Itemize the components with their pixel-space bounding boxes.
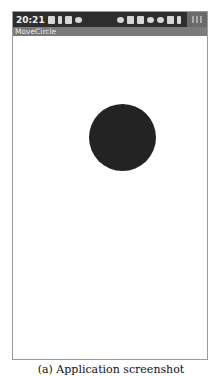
data-icon — [65, 16, 72, 24]
sim-icon — [48, 16, 55, 24]
app-title-bar: MoveCircle — [13, 27, 207, 36]
movable-circle[interactable] — [89, 104, 156, 171]
cloud-icon — [147, 17, 154, 23]
phone-screen: 20:21 MoveCircle — [12, 11, 208, 360]
wifi-icon — [75, 17, 82, 23]
notification-icons — [114, 12, 207, 27]
app-grid-icon[interactable] — [187, 12, 207, 27]
status-time: 20:21 — [13, 15, 45, 25]
cloud-icon — [117, 17, 124, 23]
android-icon — [167, 16, 174, 24]
image-icon — [137, 16, 144, 24]
shield-icon — [157, 17, 164, 23]
status-bar: 20:21 — [13, 12, 207, 27]
image-icon — [127, 16, 134, 24]
signal-icon — [58, 16, 62, 24]
usb-icon — [177, 16, 181, 24]
figure-caption: (a) Application screenshot — [0, 363, 222, 376]
app-title: MoveCircle — [15, 27, 56, 36]
